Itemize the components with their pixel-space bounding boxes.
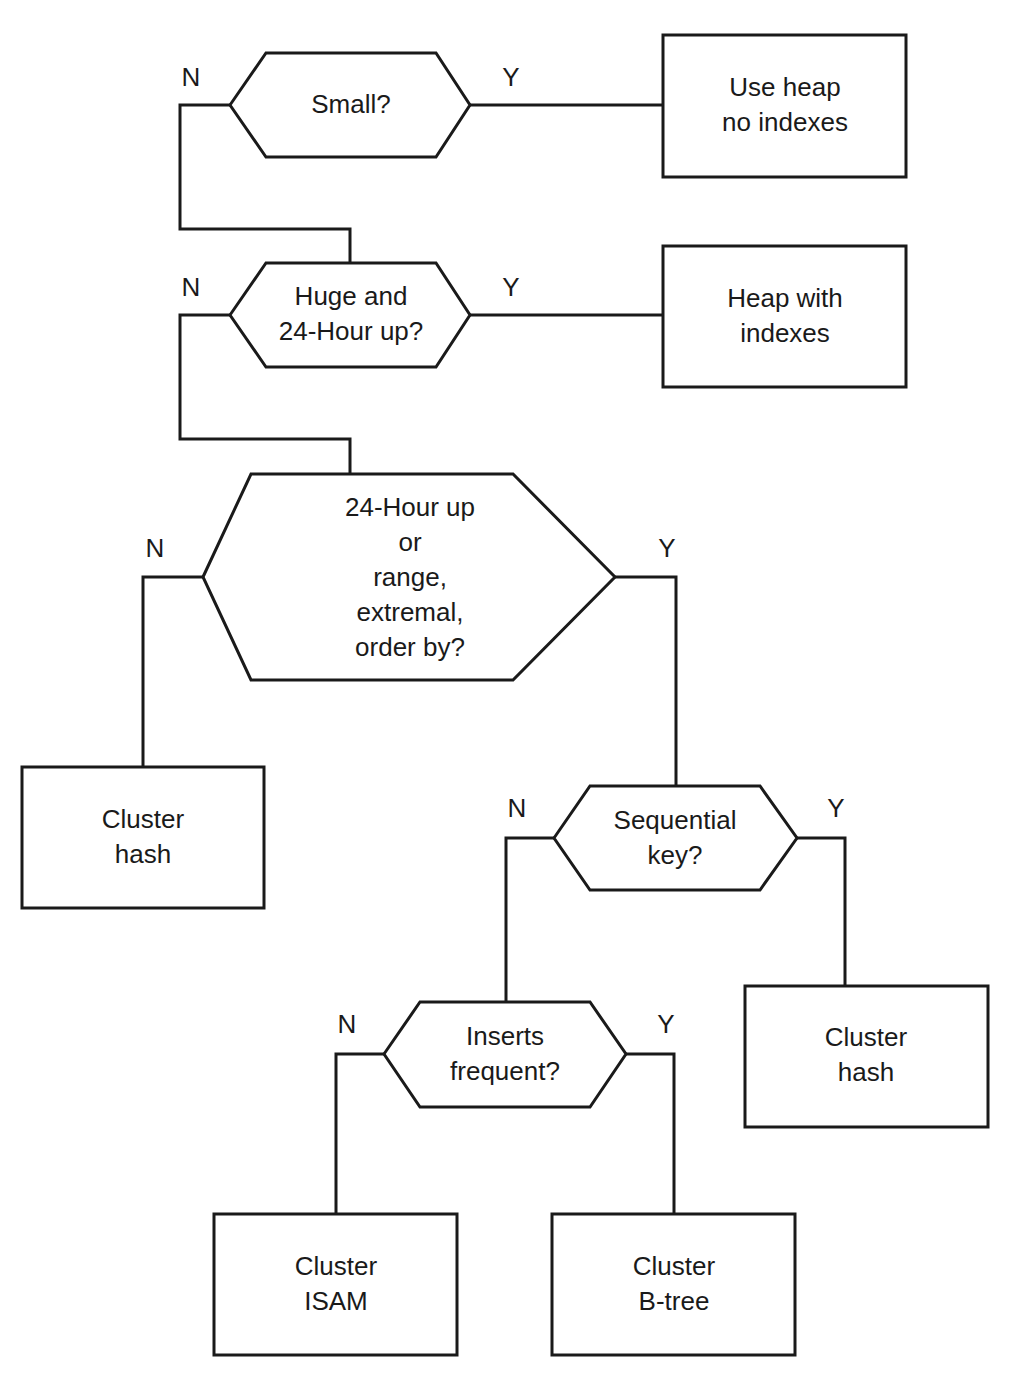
branch-huge-no-label: N [182,274,201,300]
decision-range-label: 24-Hour up or range, extremal, order by? [345,490,475,665]
branch-inserts-yes-label: Y [657,1011,674,1037]
edge-range-no [143,577,203,767]
outcome-cluster-isam-label: Cluster ISAM [295,1249,377,1319]
outcome-cluster-hash-left-label: Cluster hash [102,802,184,872]
outcome-heap-with-index-label: Heap with indexes [727,281,843,351]
decision-small-label: Small? [311,87,390,122]
outcome-heap-no-index-label: Use heap no indexes [722,70,848,140]
branch-huge-yes-label: Y [502,274,519,300]
branch-inserts-no-label: N [338,1011,357,1037]
edge-range-yes [615,577,676,786]
branch-sequential-no-label: N [508,795,527,821]
branch-small-no-label: N [182,64,201,90]
decision-inserts-label: Inserts frequent? [450,1019,560,1089]
branch-small-yes-label: Y [502,64,519,90]
outcome-cluster-btree-label: Cluster B-tree [633,1249,715,1319]
branch-range-yes-label: Y [658,535,675,561]
outcome-cluster-hash-right-label: Cluster hash [825,1020,907,1090]
edge-sequential-no [506,838,554,1002]
edge-inserts-no [336,1054,384,1214]
edge-small-no [180,105,350,263]
edge-sequential-yes [797,838,845,986]
branch-range-no-label: N [146,535,165,561]
decision-sequential-label: Sequential key? [614,803,737,873]
decision-huge-label: Huge and 24-Hour up? [279,279,424,349]
branch-sequential-yes-label: Y [827,795,844,821]
edge-inserts-yes [626,1054,674,1214]
flowchart-canvas: Small? Huge and 24-Hour up? 24-Hour up o… [0,0,1012,1380]
flowchart-shapes [0,0,1012,1380]
